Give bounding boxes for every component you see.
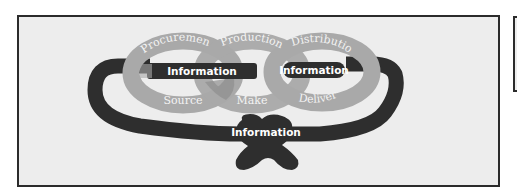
information-band-left: Information xyxy=(140,63,257,79)
diagram-stage: Information Information Procurement Prod… xyxy=(0,0,517,196)
information-label-knot: Information xyxy=(231,126,301,138)
information-label-left: Information xyxy=(167,65,237,77)
information-label-right: Information xyxy=(279,64,349,76)
label-source: Source xyxy=(163,94,202,107)
information-knot: Information xyxy=(231,114,301,170)
label-make: Make xyxy=(237,94,268,107)
information-band-right: Information xyxy=(279,62,349,78)
supply-chain-diagram: Information Information Procurement Prod… xyxy=(0,0,517,196)
